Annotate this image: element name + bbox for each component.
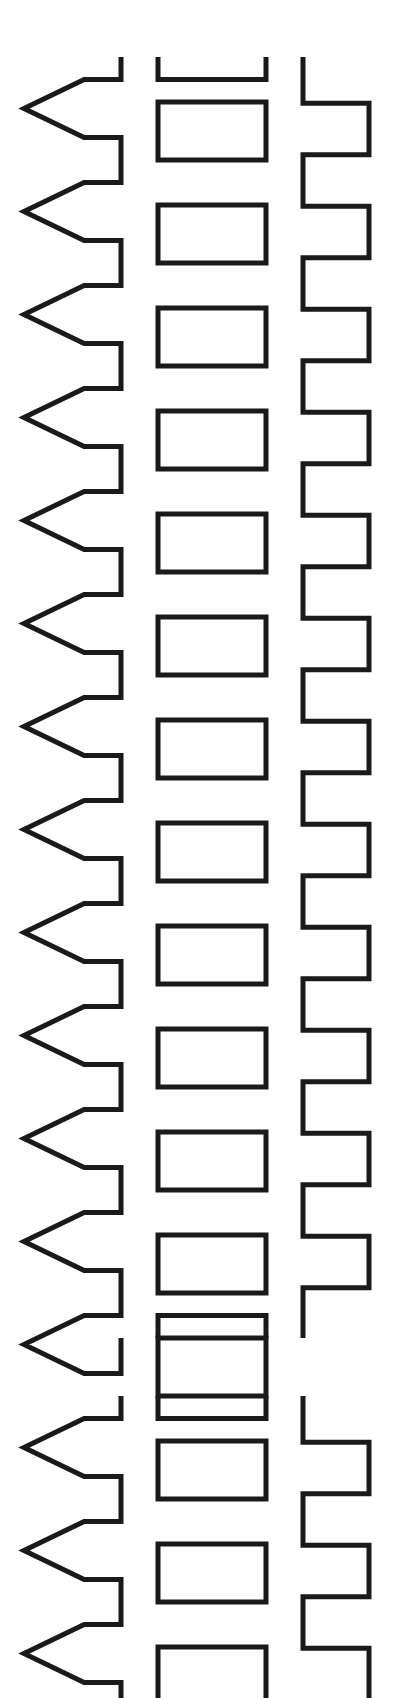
line-drawing-canvas xyxy=(0,0,409,1698)
figure-root xyxy=(0,0,409,1698)
